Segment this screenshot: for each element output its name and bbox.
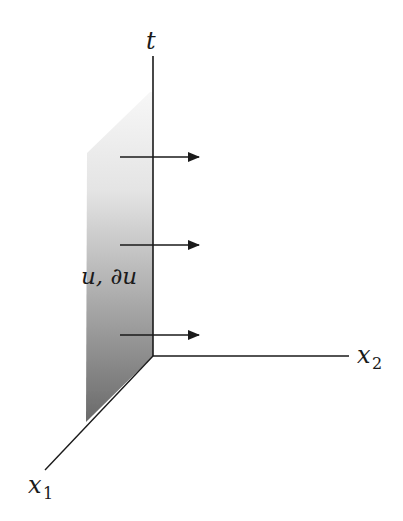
x2-axis-subscript: 2 <box>372 354 382 373</box>
plane-label: u, ∂u <box>81 263 137 289</box>
x1-axis-label: x <box>28 471 42 499</box>
x1-axis-subscript: 1 <box>43 484 53 503</box>
boundary-plane <box>86 92 153 422</box>
t-axis-label: t <box>146 27 156 55</box>
diagram-canvas: t x 2 x 1 u, ∂u <box>0 0 403 521</box>
x2-axis-label: x <box>357 341 371 369</box>
